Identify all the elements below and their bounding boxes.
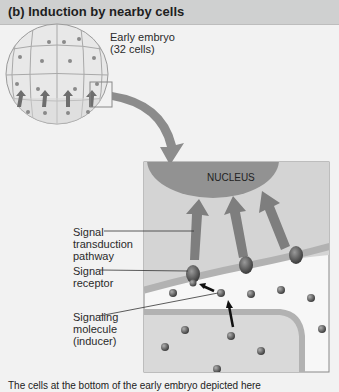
embryo-label-line2: (32 cells)	[110, 43, 175, 55]
label-line: Signaling	[73, 311, 118, 323]
signaling-molecule-label: Signaling molecule (inducer)	[73, 311, 118, 347]
label-line: (inducer)	[73, 335, 118, 347]
figure-frame: (b) Induction by nearby cells	[0, 0, 339, 392]
zoom-arrow	[112, 92, 184, 165]
figure-caption: The cells at the bottom of the early emb…	[8, 380, 261, 391]
embryo-label-line1: Early embryo	[110, 31, 175, 43]
label-line: Signal	[73, 265, 113, 277]
label-line: molecule	[73, 323, 118, 335]
label-line: Signal	[73, 226, 133, 238]
label-line: pathway	[73, 250, 133, 262]
label-line: receptor	[73, 277, 113, 289]
signal-transduction-label: Signal transduction pathway	[73, 226, 133, 262]
label-line: transduction	[73, 238, 133, 250]
diagram-graphic	[0, 0, 339, 392]
embryo-label: Early embryo (32 cells)	[110, 31, 175, 55]
nucleus-label: NUCLEUS	[207, 172, 255, 184]
signal-receptor-label: Signal receptor	[73, 265, 113, 289]
embryo-illustration	[6, 24, 112, 128]
